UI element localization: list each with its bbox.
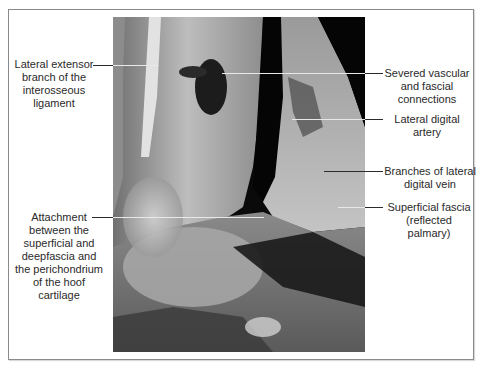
leader-line-branches-vein-photo (324, 171, 365, 172)
label-attachment: Attachment between the superficial and d… (14, 211, 104, 302)
label-severed-vascular: Severed vascular and fascial connections (381, 67, 473, 106)
dissection-photo (113, 17, 365, 352)
leader-line-severed-vascular-photo (222, 73, 365, 74)
leader-line-severed-vascular (365, 73, 383, 74)
label-branches-lateral-digital-vein: Branches of lateral digital vein (381, 165, 479, 191)
photo-illustration (113, 17, 365, 352)
leader-line-superficial-fascia (365, 207, 383, 208)
leader-line-branches-vein (365, 171, 383, 172)
leader-line-attachment (92, 217, 113, 218)
label-lateral-digital-artery: Lateral digital artery (381, 113, 473, 139)
leader-line-lateral-extensor-photo (113, 65, 158, 66)
leader-line-attachment-photo (113, 217, 264, 218)
leader-line-lateral-digital-artery-photo (292, 119, 365, 120)
leader-line-lateral-digital-artery (365, 119, 383, 120)
leader-line-lateral-extensor (93, 65, 113, 66)
label-superficial-fascia: Superficial fascia (reflected palmary) (381, 201, 477, 240)
label-lateral-extensor-branch: Lateral extensor branch of the interosse… (14, 58, 94, 110)
leader-line-superficial-fascia-photo (338, 207, 365, 208)
